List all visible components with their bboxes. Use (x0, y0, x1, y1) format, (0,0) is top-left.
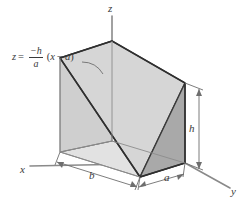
plane-equation-label: z = −h a (x − a) (12, 46, 74, 69)
y-axis-line (185, 163, 230, 188)
equation-denominator: a (32, 59, 39, 70)
h-extension-top (185, 83, 203, 90)
a-dimension-label: a (164, 171, 170, 183)
equation-close-paren: ) (70, 51, 74, 62)
b-dimension-label: b (89, 169, 95, 181)
x-axis-label: x (20, 163, 25, 175)
b-arrow-end (130, 181, 137, 187)
a-arrow-start (139, 181, 146, 187)
y-axis-label: y (231, 185, 236, 197)
figure-container: z = −h a (x − a) z x y b a h (0, 0, 250, 218)
equation-equals-sign: = (18, 52, 24, 63)
a-extension-end (183, 163, 185, 177)
equation-variable: x (50, 51, 55, 62)
equation-lhs: z (12, 52, 16, 63)
prism-diagram (0, 0, 250, 218)
equation-numerator: −h (29, 46, 43, 57)
prism-solid (60, 41, 185, 177)
equation-operator: − (57, 51, 63, 62)
a-arrow-end (177, 174, 184, 180)
equation-parenthetical: (x − a) (47, 52, 74, 63)
equation-fraction: −h a (29, 46, 43, 69)
h-arrow-top (196, 89, 202, 96)
z-axis-label: z (108, 2, 112, 14)
h-dimension-label: h (189, 122, 195, 134)
